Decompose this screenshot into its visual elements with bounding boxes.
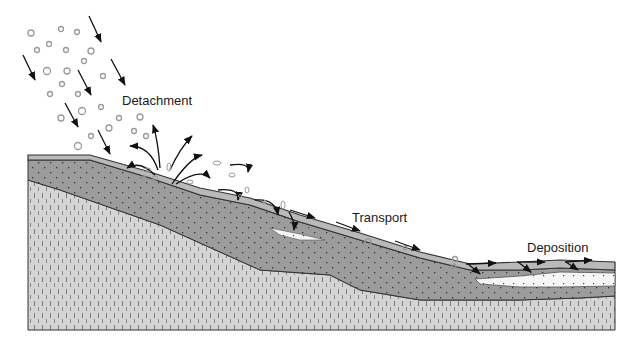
deposition-label: Deposition <box>527 240 588 255</box>
erosion-diagram: Detachment Transport Deposition <box>0 0 635 346</box>
rain-arrows <box>23 16 125 154</box>
transport-label: Transport <box>352 210 407 225</box>
detachment-label: Detachment <box>122 93 192 108</box>
